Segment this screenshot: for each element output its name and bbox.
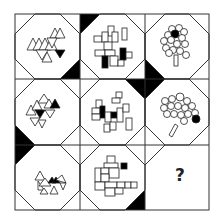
- cell-2-0-figure: [35, 171, 66, 194]
- cell-0-1-figure: [94, 26, 132, 68]
- missing-cell-question-mark: ?: [165, 165, 195, 185]
- cell-0-0-figure: [27, 28, 65, 62]
- cell-0-2-figure: [161, 25, 190, 67]
- cell-1-0-figure: [26, 94, 60, 128]
- cell-1-2-figure: [161, 93, 201, 137]
- cell-1-1-figure: [92, 92, 132, 132]
- puzzle-grid: [0, 0, 220, 223]
- cell-2-1-figure: [95, 156, 137, 196]
